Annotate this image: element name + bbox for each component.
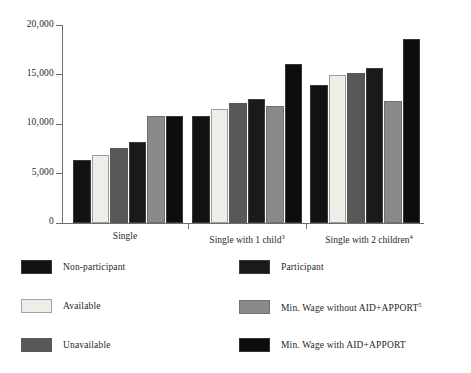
- x-category-label-text: Single with 1 child: [209, 235, 281, 245]
- legend-label-text: Min. Wage without AID+APPORT: [281, 303, 418, 313]
- bar: [229, 103, 247, 223]
- bar-chart: 20,000 15,000 10,000 5,000 0 Single Sing…: [0, 0, 471, 373]
- legend: Non-participant Available Unavailable Pa…: [0, 255, 471, 373]
- bars-layer: [0, 0, 471, 250]
- legend-swatch-icon: [21, 338, 52, 352]
- x-category-label-single-2-children: Single with 2 children4: [308, 231, 430, 246]
- bar: [366, 68, 384, 223]
- bar: [248, 99, 266, 223]
- x-category-label-text: Single with 2 children: [325, 235, 409, 245]
- footnote-marker: 5: [418, 301, 421, 308]
- bar: [329, 75, 347, 223]
- bar: [285, 64, 303, 223]
- legend-label: Unavailable: [63, 340, 111, 351]
- legend-label: Non-participant: [63, 262, 125, 273]
- bar: [73, 160, 91, 223]
- bar: [147, 116, 165, 223]
- footnote-marker: 3: [281, 233, 284, 240]
- legend-item-participant[interactable]: Participant: [239, 260, 324, 274]
- bar: [129, 142, 147, 223]
- legend-label: Participant: [281, 262, 324, 273]
- x-category-label-single-1-child: Single with 1 child3: [192, 231, 302, 246]
- bar: [403, 39, 421, 223]
- legend-swatch-icon: [239, 300, 270, 314]
- legend-label: Available: [63, 301, 101, 312]
- legend-swatch-icon: [239, 260, 270, 274]
- bar: [310, 85, 328, 223]
- bar: [92, 155, 110, 223]
- legend-label: Min. Wage without AID+APPORT5: [281, 299, 422, 314]
- x-category-label-text: Single: [113, 231, 137, 241]
- footnote-marker: 4: [409, 233, 412, 240]
- legend-swatch-icon: [21, 299, 52, 313]
- bar: [211, 109, 229, 223]
- bar: [166, 116, 184, 223]
- legend-item-min-wage-with-aid-apport[interactable]: Min. Wage with AID+APPORT: [239, 338, 406, 352]
- legend-item-non-participant[interactable]: Non-participant: [21, 260, 125, 274]
- legend-label: Min. Wage with AID+APPORT: [281, 340, 406, 351]
- x-category-label-single: Single: [85, 231, 165, 242]
- bar: [110, 148, 128, 223]
- bar: [384, 101, 402, 223]
- bar: [347, 73, 365, 223]
- legend-swatch-icon: [239, 338, 270, 352]
- legend-item-available[interactable]: Available: [21, 299, 101, 313]
- legend-swatch-icon: [21, 260, 52, 274]
- bar: [266, 106, 284, 223]
- bar: [192, 116, 210, 223]
- legend-item-unavailable[interactable]: Unavailable: [21, 338, 111, 352]
- legend-item-min-wage-without-aid-apport[interactable]: Min. Wage without AID+APPORT5: [239, 299, 422, 314]
- plot-area: 20,000 15,000 10,000 5,000 0 Single Sing…: [0, 0, 471, 250]
